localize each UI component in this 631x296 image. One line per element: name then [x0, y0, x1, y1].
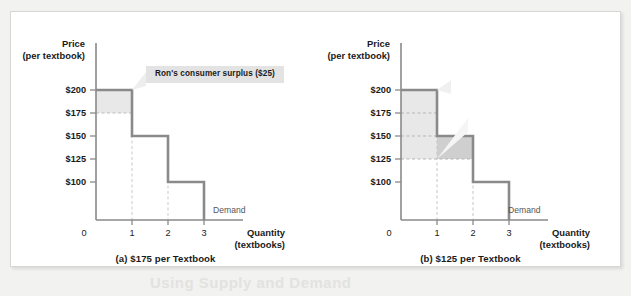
surplus-region-ron [96, 90, 132, 113]
panel-a-175-per-textbook: Price (per textbook) $200 $175 $150 $125… [13, 12, 318, 268]
panel-b-chart: Price (per textbook) $200 $175 $150 $125… [318, 12, 623, 268]
y-tick-label-125: $125 [371, 154, 391, 164]
y-tick-label-150: $150 [66, 131, 86, 141]
x-tick-label-3: 3 [506, 228, 511, 238]
callout-rons-consumer-surplus: Ron's consumer surplus ($25) [146, 66, 284, 83]
y-tick-label-175: $175 [371, 108, 391, 118]
y-tick-label-200: $200 [66, 85, 86, 95]
panel-a-chart: Price (per textbook) $200 $175 $150 $125… [13, 12, 318, 268]
y-tick-label-150: $150 [371, 131, 391, 141]
callout-leader-ron [132, 72, 146, 90]
x-axis-title-line1: Quantity [552, 227, 591, 238]
callout-leader-ron [437, 80, 451, 94]
x-axis-title-line2: (textbooks) [234, 239, 285, 250]
y-tick-label-175: $175 [66, 108, 86, 118]
surplus-region-ron [401, 90, 437, 159]
x-origin-label: 0 [81, 228, 86, 238]
y-axis-title-line2: (per textbook) [22, 50, 85, 61]
panel-b-125-per-textbook: Price (per textbook) $200 $175 $150 $125… [318, 12, 623, 268]
scanned-page-background: Using Supply and Demand [0, 0, 631, 296]
y-tick-label-100: $100 [66, 177, 86, 187]
x-tick-label-2: 2 [165, 228, 170, 238]
x-axis-title-line1: Quantity [247, 227, 286, 238]
x-tick-label-1: 1 [434, 228, 439, 238]
figure-card: Price (per textbook) $200 $175 $150 $125… [10, 11, 621, 267]
x-tick-label-1: 1 [129, 228, 134, 238]
y-tick-label-200: $200 [371, 85, 391, 95]
x-origin-label: 0 [386, 228, 391, 238]
panel-b-caption: (b) $125 per Textbook [318, 253, 623, 264]
page-bleedthrough-text: Using Supply and Demand [150, 274, 480, 292]
panel-a-caption: (a) $175 per Textbook [13, 253, 318, 264]
x-tick-label-2: 2 [470, 228, 475, 238]
y-axis-title-line1: Price [367, 38, 390, 49]
x-axis-title-line2: (textbooks) [539, 239, 590, 250]
y-axis-title-line1: Price [62, 38, 85, 49]
demand-curve-label: Demand [508, 205, 541, 215]
y-axis-title-line2: (per textbook) [327, 50, 390, 61]
y-tick-label-100: $100 [371, 177, 391, 187]
x-tick-label-3: 3 [201, 228, 206, 238]
y-tick-label-125: $125 [66, 154, 86, 164]
demand-curve-label: Demand [213, 205, 246, 215]
